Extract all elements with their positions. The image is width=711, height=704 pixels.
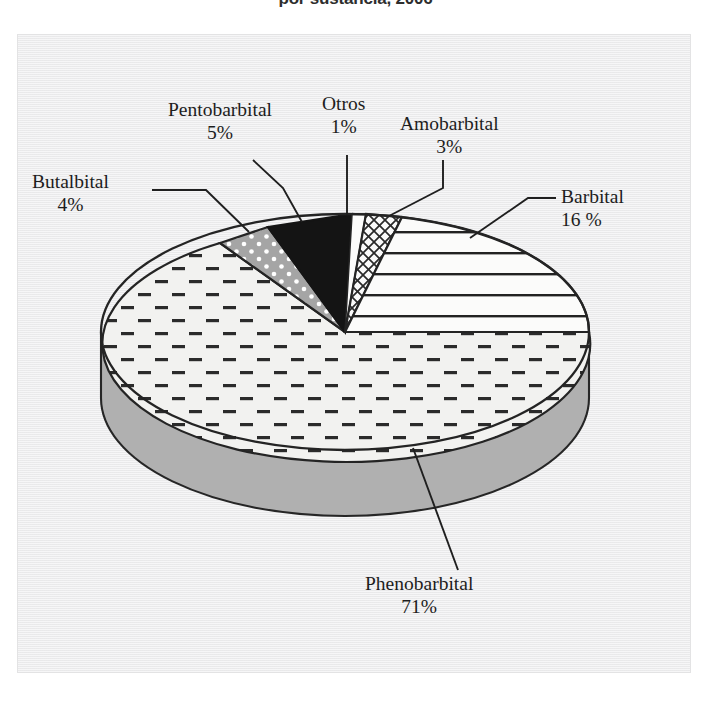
- slice-label-barbital-name: Barbital: [561, 186, 624, 207]
- slice-label-otros-name: Otros: [322, 93, 365, 114]
- slice-label-amobarbital-name: Amobarbital: [400, 113, 499, 134]
- slice-label-pentobarbital-name: Pentobarbital: [168, 99, 272, 120]
- slice-label-phenobarbital-name: Phenobarbital: [365, 573, 473, 594]
- leader-barbital: [470, 198, 556, 238]
- slice-label-barbital-percent: 16 %: [561, 208, 624, 231]
- leader-pentobarbital: [253, 160, 302, 222]
- slice-label-barbital: Barbital 16 %: [561, 185, 624, 231]
- slice-label-phenobarbital-percent: 71%: [365, 595, 473, 618]
- slice-label-amobarbital-percent: 3%: [400, 135, 499, 158]
- pie-slices: [101, 214, 590, 462]
- slice-label-butalbital-percent: 4%: [32, 193, 109, 216]
- slice-label-butalbital-name: Butalbital: [32, 171, 109, 192]
- slice-label-amobarbital: Amobarbital 3%: [400, 112, 499, 158]
- slice-label-butalbital: Butalbital 4%: [32, 170, 109, 216]
- slice-label-otros: Otros 1%: [322, 92, 365, 138]
- slice-label-pentobarbital: Pentobarbital 5%: [168, 98, 272, 144]
- leader-amobarbital: [389, 160, 443, 216]
- slice-label-pentobarbital-percent: 5%: [168, 121, 272, 144]
- slice-label-otros-percent: 1%: [322, 115, 365, 138]
- slice-label-phenobarbital: Phenobarbital 71%: [365, 572, 473, 618]
